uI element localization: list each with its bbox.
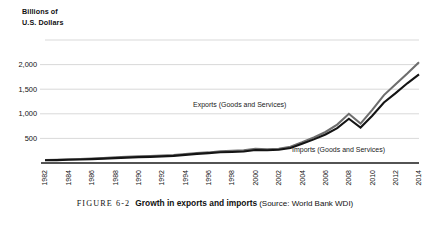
x-tick-label-1998: 1998: [228, 170, 235, 186]
figure-number: FIGURE 6-2: [77, 199, 131, 208]
x-tick-label-2004: 2004: [299, 170, 306, 186]
y-axis-tick-labels: 5001,0001,5002,000: [19, 60, 46, 143]
y-tick-label-1500: 1,500: [19, 85, 38, 94]
figure-title: Growth in exports and imports: [135, 198, 257, 208]
x-tick-label-2000: 2000: [252, 170, 259, 186]
x-tick-label-1986: 1986: [88, 170, 95, 186]
x-tick-label-1996: 1996: [205, 170, 212, 186]
figure-caption: FIGURE 6-2Growth in exports and imports(…: [0, 198, 430, 208]
annotation-imports: Imports (Goods and Services): [292, 146, 385, 154]
x-tick-label-2002: 2002: [275, 170, 282, 186]
figure-container: Billions of U.S. Dollars 5001,0001,5002,…: [0, 0, 430, 226]
x-tick-label-2010: 2010: [369, 170, 376, 186]
x-tick-label-1988: 1988: [112, 170, 119, 186]
y-tick-label-1000: 1,000: [19, 109, 38, 118]
x-tick-label-1990: 1990: [135, 170, 142, 186]
y-tick-label-500: 500: [25, 134, 37, 143]
x-tick-label-1984: 1984: [65, 170, 72, 186]
x-tick-label-2012: 2012: [392, 170, 399, 186]
y-tick-label-2000: 2,000: [19, 60, 38, 69]
x-tick-label-2014: 2014: [415, 170, 422, 186]
x-tick-label-2006: 2006: [322, 170, 329, 186]
line-chart: 5001,0001,5002,000 198219841986198819901…: [0, 0, 430, 192]
x-tick-label-1992: 1992: [158, 170, 165, 186]
x-tick-label-1982: 1982: [41, 170, 48, 186]
x-tick-label-1994: 1994: [182, 170, 189, 186]
plot-area: 5001,0001,5002,000 198219841986198819901…: [0, 0, 430, 192]
annotation-exports: Exports (Goods and Services): [193, 101, 286, 109]
x-tick-label-2008: 2008: [345, 170, 352, 186]
figure-source: (Source: World Bank WDI): [259, 199, 353, 208]
x-axis-tick-labels: 1982198419861988199019921994199619982000…: [41, 170, 422, 186]
